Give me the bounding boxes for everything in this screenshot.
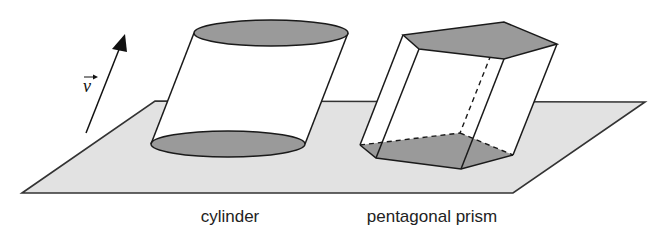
cylinder-top-base <box>194 20 348 46</box>
cylinder-bottom-base <box>151 131 305 157</box>
cylinder-label: cylinder <box>201 207 260 226</box>
oblique-solids-diagram: v cylinder pentagonal prism <box>0 0 663 234</box>
vector-label: v <box>83 75 98 97</box>
direction-vector-arrow <box>86 34 127 133</box>
base-plane <box>22 101 645 193</box>
pentagonal-prism-label: pentagonal prism <box>367 207 497 226</box>
vector-label-text: v <box>83 76 91 96</box>
